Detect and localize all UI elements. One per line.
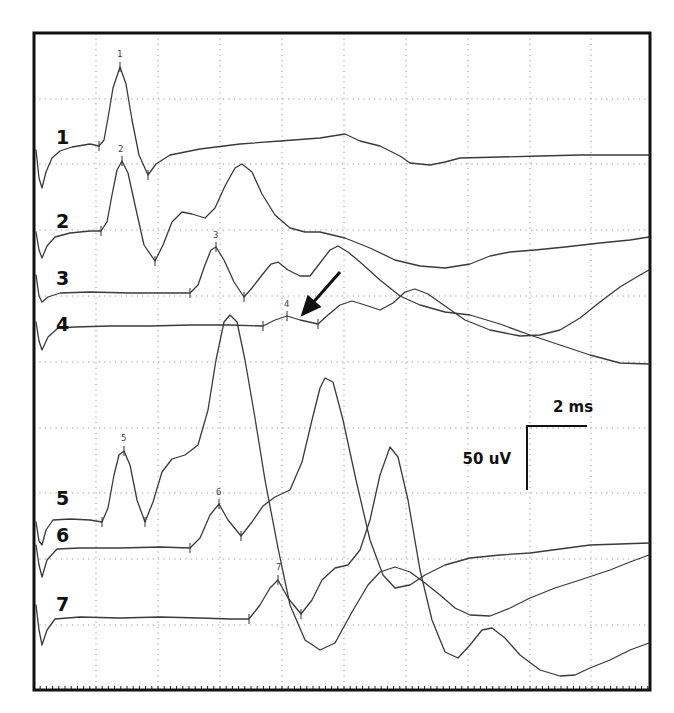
trace-label-6: 6 [56, 524, 69, 546]
traces [36, 62, 649, 676]
arrow-shaft [314, 272, 340, 302]
trace-7 [36, 447, 649, 676]
trace-label-2: 2 [56, 210, 69, 232]
grid-lines [34, 33, 650, 690]
peak-label-6: 6 [216, 487, 221, 497]
trace-3 [36, 246, 649, 364]
scale-bar-lines [527, 426, 587, 490]
scale-bar: 2 ms 50 uV [463, 398, 594, 490]
arrow-icon [303, 272, 340, 314]
trace-label-3: 3 [56, 267, 69, 289]
scale-amplitude-label: 50 uV [463, 450, 512, 468]
peak-label-4: 4 [284, 299, 289, 309]
peak-label-2: 2 [118, 144, 123, 154]
trace-1 [36, 67, 649, 188]
trace-label-5: 5 [56, 487, 69, 509]
scale-time-label: 2 ms [553, 398, 593, 416]
peak-label-5: 5 [121, 433, 126, 443]
trace-label-1: 1 [56, 126, 69, 148]
peak-label-1: 1 [117, 49, 122, 59]
trace-label-7: 7 [56, 593, 69, 615]
trace-4 [36, 270, 649, 350]
trace-5 [36, 315, 649, 650]
peak-label-3: 3 [213, 230, 218, 240]
peak-label-7: 7 [276, 562, 281, 572]
evoked-potential-plot: 11223344556677 2 ms 50 uV [0, 0, 674, 713]
trace-label-4: 4 [56, 313, 69, 335]
trace-2 [36, 161, 649, 268]
trace-labels: 11223344556677 [56, 49, 289, 615]
